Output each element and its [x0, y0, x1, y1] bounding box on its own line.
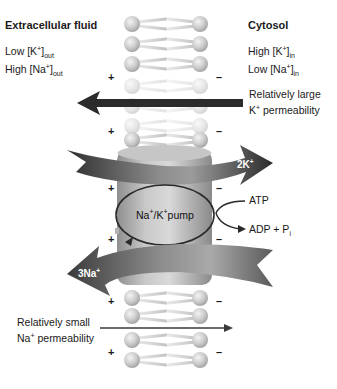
- k-prefix: High [K: [248, 45, 282, 57]
- k-symbol: /K: [154, 209, 164, 221]
- pump-word: pump: [168, 209, 194, 221]
- positive-charge-sign: +: [108, 347, 114, 358]
- permeability-word: permeability: [35, 332, 95, 344]
- lipid-bilayer-bottom: [124, 290, 208, 368]
- cytosol-k-concentration: High [K+]in: [248, 45, 295, 57]
- na-flux-label: 3Na+: [78, 267, 100, 279]
- cytosol-heading: Cytosol: [248, 19, 288, 31]
- na-prefix: Low [Na: [248, 63, 287, 75]
- positive-charge-sign: +: [108, 72, 114, 83]
- na-charge: +: [96, 267, 100, 274]
- positive-charge-sign: +: [108, 296, 114, 307]
- negative-charge-sign: –: [216, 296, 222, 307]
- permeability-word: permeability: [260, 104, 320, 116]
- na-prefix: High [Na: [5, 63, 46, 75]
- positive-charge-sign: +: [108, 234, 114, 245]
- atp-label: ATP: [249, 194, 269, 206]
- negative-charge-sign: –: [216, 72, 222, 83]
- na-location: out: [53, 70, 63, 77]
- negative-charge-sign: –: [216, 347, 222, 358]
- na-permeability-arrow: [100, 324, 233, 332]
- na-symbol: Na: [17, 332, 30, 344]
- k-charge: +: [250, 158, 254, 165]
- lipid-bilayer-top: [124, 16, 208, 72]
- na-permeability-label-line1: Relatively small: [17, 316, 90, 328]
- k-location: out: [44, 52, 54, 59]
- k-symbol: K: [249, 104, 256, 116]
- atp-hydrolysis-arrow: [216, 201, 246, 233]
- phosphate-subscript: i: [289, 230, 291, 237]
- na-location: in: [294, 70, 299, 77]
- negative-charge-sign: –: [216, 126, 222, 137]
- negative-charge-sign: –: [216, 183, 222, 194]
- k-flux-label: 2K+: [237, 158, 254, 170]
- k-prefix: Low [K: [5, 45, 37, 57]
- positive-charge-sign: +: [108, 183, 114, 194]
- na-count: 3Na: [78, 268, 96, 279]
- pump-label: Na+/K+pump: [136, 208, 194, 221]
- cytosol-na-concentration: Low [Na+]in: [248, 63, 299, 75]
- diagram-canvas: Extracellular fluid Low [K+]out High [Na…: [0, 0, 337, 389]
- k-permeability-label-line2: K+ permeability: [249, 104, 320, 116]
- adp-text: ADP + P: [249, 223, 289, 235]
- extracellular-heading: Extracellular fluid: [5, 19, 97, 31]
- na-symbol: Na: [136, 209, 149, 221]
- extracellular-k-concentration: Low [K+]out: [5, 45, 54, 57]
- na-permeability-label-line2: Na+ permeability: [17, 332, 94, 344]
- k-count: 2K: [237, 159, 250, 170]
- positive-charge-sign: +: [108, 126, 114, 137]
- k-location: in: [289, 52, 294, 59]
- adp-pi-label: ADP + Pi: [249, 223, 291, 235]
- negative-charge-sign: –: [216, 234, 222, 245]
- extracellular-na-concentration: High [Na+]out: [5, 63, 63, 75]
- k-permeability-label-line1: Relatively large: [249, 88, 321, 100]
